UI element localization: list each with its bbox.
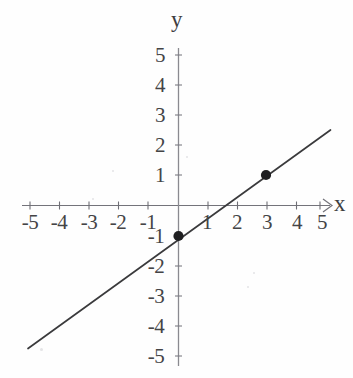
data-point-3-1	[261, 170, 271, 180]
x-tick-label-4: 4	[286, 212, 308, 233]
x-tick-label-3: 3	[256, 212, 278, 233]
coordinate-plane-figure: y x -5 -4 -3 -2 -1 1 2 3 4 5 5 4 3 2 1 -…	[0, 0, 353, 378]
scan-speckle	[92, 198, 94, 200]
data-point-0-neg1	[173, 231, 183, 241]
scan-speckle	[112, 170, 114, 172]
x-tick-label--3: -3	[75, 212, 103, 233]
y-tick-label--2: -2	[142, 256, 170, 277]
y-axis-name: y	[171, 8, 183, 31]
scan-speckle	[40, 348, 43, 351]
x-tick-label-1: 1	[196, 212, 218, 233]
x-tick-label-5: 5	[311, 212, 333, 233]
y-tick-label-3: 3	[149, 105, 171, 126]
scan-speckle	[186, 156, 188, 158]
x-tick-label-2: 2	[226, 212, 248, 233]
x-tick-label--2: -2	[104, 212, 132, 233]
y-tick-label-2: 2	[149, 135, 171, 156]
y-tick-label--1: -1	[142, 226, 170, 247]
scan-speckle	[253, 272, 255, 274]
plot-canvas	[0, 0, 353, 378]
y-tick-label-1: 1	[149, 165, 171, 186]
x-tick-label--5: -5	[16, 212, 44, 233]
x-tick-label--4: -4	[45, 212, 73, 233]
y-tick-label--5: -5	[142, 346, 170, 367]
x-axis-name: x	[334, 192, 346, 215]
scan-speckle	[247, 286, 249, 288]
y-tick-label--3: -3	[142, 286, 170, 307]
y-tick-label-4: 4	[149, 75, 171, 96]
y-tick-label--4: -4	[142, 316, 170, 337]
y-tick-label-5: 5	[149, 45, 171, 66]
